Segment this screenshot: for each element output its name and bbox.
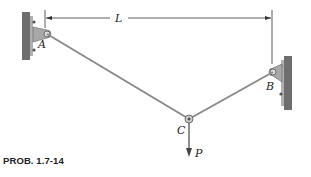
arrowhead-left-icon <box>46 16 52 20</box>
left-wall-support <box>22 12 51 60</box>
figure-caption: PROB. 1.7-14 <box>3 155 64 166</box>
span-label: L <box>114 12 122 25</box>
dimension-line <box>45 10 272 64</box>
arrowhead-right-icon <box>265 16 271 20</box>
truss-diagram: L A B C P <box>0 0 311 177</box>
cable-ac <box>47 34 189 119</box>
support-a-label: A <box>37 38 46 51</box>
load-label: P <box>194 147 203 160</box>
support-b-label: B <box>265 80 274 93</box>
joint-c-label: C <box>177 124 186 137</box>
cable-bc <box>189 72 273 119</box>
load-arrowhead-icon <box>186 148 192 157</box>
